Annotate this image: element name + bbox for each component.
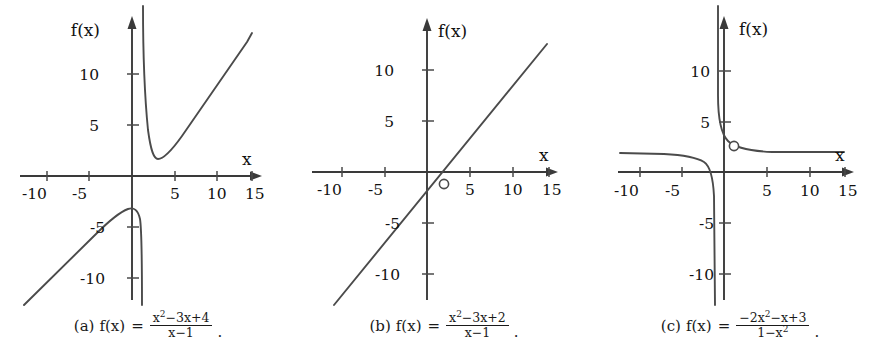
panel-c: -10 -5 5 10 15 10 5 -5 -10 f(x) x (c) f(… bbox=[592, 0, 888, 362]
y-tick-label-a-5: 5 bbox=[89, 117, 99, 135]
x-tick-label-b-15: 15 bbox=[542, 181, 562, 199]
x-tick-label-b-10: 10 bbox=[503, 181, 523, 199]
caption-a-numerator: x2−3x+4 bbox=[150, 311, 213, 325]
caption-a: (a) f(x) = x2−3x+4 x−1 . bbox=[0, 312, 296, 341]
x-tick-label-c-neg5: -5 bbox=[665, 182, 680, 200]
y-tick-label-b-5: 5 bbox=[384, 113, 394, 131]
caption-c-numerator: −2x2−x+3 bbox=[736, 311, 809, 325]
panel-a: -10 -5 5 10 15 10 5 -5 -10 f(x) x (a) f(… bbox=[0, 0, 296, 362]
plot-c: -10 -5 5 10 15 10 5 -5 -10 f(x) x bbox=[592, 0, 888, 310]
x-tick-label-b-neg10: -10 bbox=[317, 181, 342, 199]
panel-b: -10 -5 5 10 15 10 5 -5 -10 f(x) x (b) f(… bbox=[296, 0, 592, 362]
y-tick-label-a-neg5: -5 bbox=[90, 219, 105, 237]
y-axis-label-b: f(x) bbox=[438, 21, 467, 41]
y-tick-label-c-neg10: -10 bbox=[689, 266, 714, 284]
plot-b: -10 -5 5 10 15 10 5 -5 -10 f(x) x bbox=[296, 0, 592, 310]
curve-b-line bbox=[334, 44, 547, 305]
caption-b-denominator: x−1 bbox=[446, 325, 509, 340]
caption-c: (c) f(x) = −2x2−x+3 1−x2 . bbox=[592, 312, 888, 341]
caption-b-period: . bbox=[514, 325, 519, 341]
x-tick-label-a-15: 15 bbox=[245, 185, 265, 203]
caption-a-fn: f(x) bbox=[99, 319, 125, 334]
y-tick-label-c-neg5: -5 bbox=[699, 215, 714, 233]
x-tick-label-b-neg5: -5 bbox=[368, 181, 383, 199]
hole-marker-b bbox=[439, 179, 448, 188]
caption-c-fraction: −2x2−x+3 1−x2 bbox=[736, 311, 809, 340]
x-tick-label-a-10: 10 bbox=[207, 185, 227, 203]
y-tick-label-b-neg5: -5 bbox=[385, 215, 400, 233]
x-tick-label-a-neg5: -5 bbox=[72, 185, 87, 203]
caption-b-fn: f(x) bbox=[396, 319, 422, 334]
y-tick-label-a-neg10: -10 bbox=[80, 270, 105, 288]
caption-c-equals: = bbox=[717, 319, 732, 334]
plot-a: -10 -5 5 10 15 10 5 -5 -10 f(x) x bbox=[0, 0, 296, 310]
x-tick-label-a-5: 5 bbox=[170, 185, 180, 203]
curve-c-right-branch bbox=[718, 6, 844, 152]
caption-b-equals: = bbox=[426, 319, 441, 334]
x-tick-label-b-5: 5 bbox=[465, 181, 475, 199]
caption-c-fn: f(x) bbox=[686, 319, 712, 334]
y-tick-label-a-10: 10 bbox=[79, 66, 99, 84]
caption-a-period: . bbox=[217, 325, 222, 341]
caption-b-fraction: x2−3x+2 x−1 bbox=[446, 311, 509, 340]
x-tick-label-c-10: 10 bbox=[800, 182, 820, 200]
curve-a-left-branch bbox=[24, 208, 142, 305]
caption-b-numerator: x2−3x+2 bbox=[446, 311, 509, 325]
y-tick-label-c-5: 5 bbox=[700, 114, 710, 132]
x-axis-a bbox=[20, 171, 262, 181]
y-axis-label-c: f(x) bbox=[739, 19, 768, 39]
caption-c-period: . bbox=[814, 325, 819, 341]
caption-a-denominator: x−1 bbox=[150, 325, 213, 340]
x-tick-label-c-5: 5 bbox=[762, 182, 772, 200]
caption-a-equals: = bbox=[130, 319, 145, 334]
x-axis-label-a: x bbox=[242, 149, 252, 169]
caption-b: (b) f(x) = x2−3x+2 x−1 . bbox=[296, 312, 592, 341]
y-tick-label-c-10: 10 bbox=[690, 63, 710, 81]
y-axis-a bbox=[127, 16, 139, 300]
x-axis-c bbox=[618, 167, 854, 177]
x-tick-label-c-neg10: -10 bbox=[614, 182, 639, 200]
caption-a-fraction: x2−3x+4 x−1 bbox=[150, 311, 213, 340]
x-axis-b bbox=[312, 167, 558, 177]
caption-b-tag: (b) bbox=[369, 319, 390, 334]
y-axis-label-a: f(x) bbox=[71, 20, 100, 40]
caption-a-tag: (a) bbox=[74, 319, 95, 334]
x-tick-label-a-neg10: -10 bbox=[22, 185, 47, 203]
x-axis-label-c: x bbox=[835, 145, 845, 165]
x-tick-label-c-15: 15 bbox=[838, 182, 858, 200]
caption-c-denominator: 1−x2 bbox=[736, 325, 809, 340]
y-axis-b bbox=[422, 18, 434, 300]
y-axis-c bbox=[719, 16, 731, 300]
figure-three-rational-function-graphs: -10 -5 5 10 15 10 5 -5 -10 f(x) x (a) f(… bbox=[0, 0, 888, 362]
caption-c-tag: (c) bbox=[661, 319, 681, 334]
hole-marker-c bbox=[729, 141, 738, 150]
y-tick-label-b-10: 10 bbox=[374, 62, 394, 80]
x-axis-label-b: x bbox=[539, 145, 549, 165]
y-tick-label-b-neg10: -10 bbox=[375, 266, 400, 284]
curve-a-right-branch bbox=[143, 6, 252, 159]
